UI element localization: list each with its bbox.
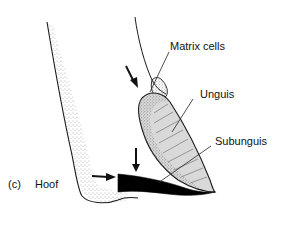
arrow-subunguis-right: [92, 173, 116, 181]
arrow-subunguis-down: [132, 148, 140, 172]
dermis-layer: [47, 22, 130, 203]
unguis-shape: [139, 93, 215, 192]
label-unguis: Unguis: [200, 88, 234, 100]
label-matrix-cells: Matrix cells: [170, 40, 225, 52]
panel-caption: (c) Hoof: [8, 178, 58, 190]
arrow-matrix-down: [126, 66, 138, 88]
panel-title: Hoof: [35, 178, 58, 190]
panel-label: (c): [8, 178, 21, 190]
label-subunguis: Subunguis: [215, 135, 267, 147]
